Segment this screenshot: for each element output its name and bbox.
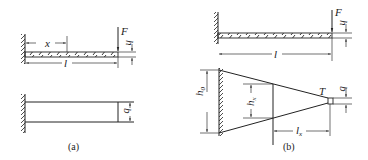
panel-b-plan-view: b T h0 hx lx <box>193 68 352 145</box>
T-label: T <box>319 85 326 97</box>
cantilever-beam-diagram: x l F h b (a) <box>0 0 368 160</box>
panel-a: x l F h b (a) <box>21 25 136 153</box>
F-label: F <box>334 6 342 18</box>
caption-b: (b) <box>283 141 295 153</box>
b-label: b <box>338 86 350 92</box>
beam <box>25 52 118 57</box>
l-label: l <box>274 48 277 60</box>
panel-a-side-view: x l F h <box>21 25 136 69</box>
b-label: b <box>122 108 134 114</box>
beam <box>218 33 332 38</box>
h-label: h <box>338 20 350 26</box>
l-label: l <box>64 57 67 69</box>
h-label: h <box>124 40 136 46</box>
panel-b-side-view: F h l <box>214 6 352 61</box>
hx-label: hx <box>244 97 258 107</box>
lx-label: lx <box>296 124 303 138</box>
wall-hatch <box>21 34 25 64</box>
panel-a-plan-view: b <box>21 94 134 133</box>
F-label: F <box>120 25 128 37</box>
x-label: x <box>44 37 50 49</box>
wall-hatch <box>214 12 218 44</box>
caption-a: (a) <box>68 141 79 153</box>
panel-b: F h l b T h0 <box>193 6 352 153</box>
tip-block <box>328 98 333 104</box>
wall-hatch-plan <box>21 94 25 133</box>
h0-label: h0 <box>193 87 207 97</box>
wall-hatch-plan <box>219 68 223 136</box>
